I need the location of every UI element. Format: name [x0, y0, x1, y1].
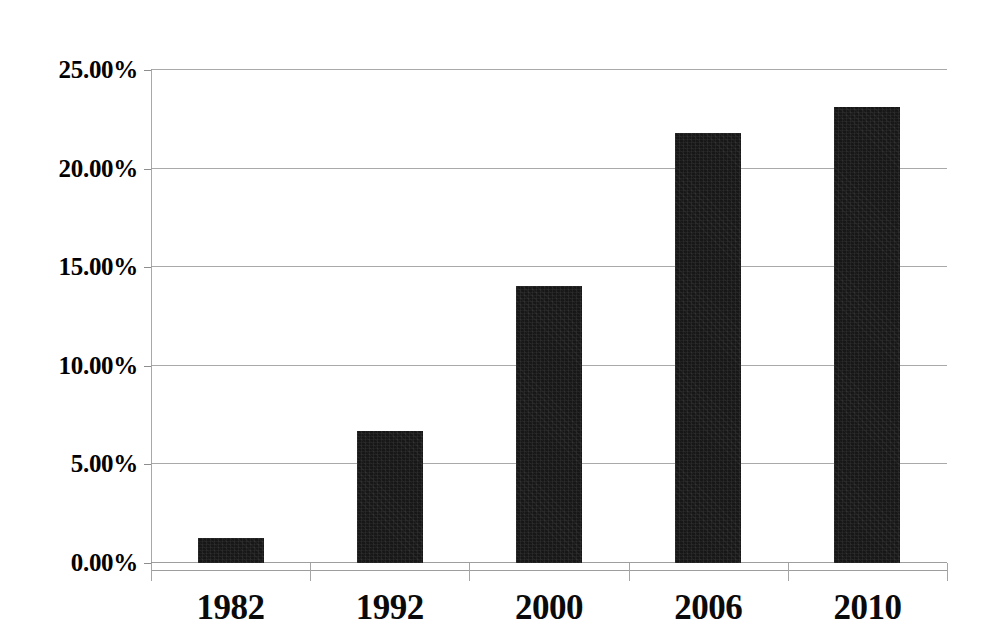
bar-chart-figure: 25.00% 20.00% 15.00% 10.00% 5.00% 0.00% …	[0, 0, 991, 632]
gridline	[151, 266, 947, 267]
plot-area	[151, 70, 947, 563]
x-axis-tick	[947, 563, 948, 581]
y-axis-tick	[144, 366, 151, 367]
x-axis-tick	[310, 563, 311, 581]
x-axis-tick	[469, 563, 470, 581]
bar	[516, 286, 582, 563]
bar	[675, 133, 741, 563]
x-tick-label: 2010	[833, 588, 901, 628]
y-axis-tick	[144, 563, 151, 564]
y-tick-label: 5.00%	[3, 450, 138, 478]
gridline	[151, 168, 947, 169]
x-axis-tick-labels: 19821992200020062010	[151, 588, 947, 632]
x-tick-label: 1982	[197, 588, 265, 628]
y-tick-label: 25.00%	[3, 56, 138, 84]
y-tick-label: 20.00%	[3, 155, 138, 183]
x-axis-tick	[151, 563, 152, 581]
bar	[198, 538, 264, 563]
y-axis-tick	[144, 70, 151, 71]
y-axis-tick	[144, 267, 151, 268]
y-tick-label: 0.00%	[3, 549, 138, 577]
gridline	[151, 69, 947, 70]
y-axis-tick	[144, 464, 151, 465]
x-tick-label: 2000	[515, 588, 583, 628]
x-axis-tick	[629, 563, 630, 581]
y-tick-label: 15.00%	[3, 253, 138, 281]
x-tick-label: 2006	[674, 588, 742, 628]
bar	[834, 107, 900, 563]
bar	[357, 431, 423, 563]
x-axis-tick	[788, 563, 789, 581]
x-axis-line	[151, 570, 947, 571]
y-tick-label: 10.00%	[3, 352, 138, 380]
y-axis-tick-labels: 25.00% 20.00% 15.00% 10.00% 5.00% 0.00%	[0, 0, 138, 632]
y-axis-tick	[144, 169, 151, 170]
x-tick-label: 1992	[356, 588, 424, 628]
